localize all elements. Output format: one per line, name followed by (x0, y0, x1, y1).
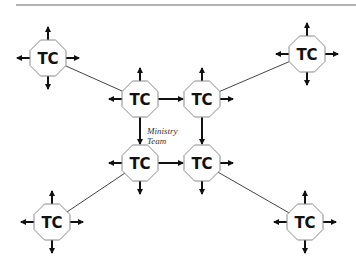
link-bl-cbl (65, 172, 128, 214)
tc-node-ctl: TC (109, 68, 158, 117)
tc-node-br: TC (274, 191, 336, 253)
tc-label: TC (191, 91, 212, 109)
tc-label: TC (37, 50, 58, 68)
link-br-cbr (215, 171, 291, 215)
tc-node-tl: TC (17, 27, 79, 89)
tc-node-bl: TC (21, 191, 83, 253)
team-structure-diagram: TCTCTCTCTCTCTCTC Ministry Team (0, 0, 356, 275)
ministry-team-label-line2: Team (147, 136, 167, 146)
link-tl-ctl (62, 64, 126, 93)
tc-label: TC (129, 155, 150, 173)
ministry-team-label-line1: Ministry (146, 126, 178, 136)
tc-nodes: TCTCTCTCTCTCTCTC (17, 23, 338, 253)
tc-node-ctr: TC (184, 68, 233, 117)
tc-node-cbl: TC (109, 145, 158, 194)
connector-lines (62, 60, 293, 214)
tc-label: TC (294, 214, 315, 232)
tc-label: TC (41, 214, 62, 232)
tc-node-cbr: TC (184, 145, 233, 194)
tc-label: TC (129, 91, 150, 109)
link-tr-ctr (216, 60, 293, 93)
tc-node-tr: TC (276, 23, 338, 85)
tc-label: TC (191, 155, 212, 173)
tc-label: TC (296, 46, 317, 64)
